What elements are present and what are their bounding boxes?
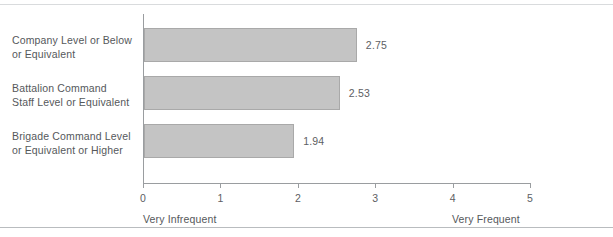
category-label-company-line1: Company Level or Below: [12, 33, 140, 47]
category-label-brigade-line2: or Equivalent or Higher: [12, 143, 140, 157]
x-tick-label-3: 3: [372, 192, 378, 204]
plot-area: 2.75 2.53 1.94 012345 Very Infrequent Ve…: [143, 14, 530, 183]
category-label-battalion-line1: Battalion Command: [12, 81, 140, 95]
bar-value-company: 2.75: [366, 39, 387, 51]
x-tick-1: [220, 183, 221, 188]
chart-figure: Company Level or Below or Equivalent Bat…: [0, 0, 613, 237]
bar-battalion[interactable]: [144, 76, 340, 110]
top-divider: [0, 4, 613, 5]
category-label-brigade-line1: Brigade Command Level: [12, 129, 140, 143]
bar-value-brigade: 1.94: [303, 135, 324, 147]
category-label-battalion: Battalion Command Staff Level or Equival…: [12, 81, 140, 109]
category-label-company-line2: or Equivalent: [12, 47, 140, 61]
x-tick-2: [298, 183, 299, 188]
scale-anchor-high: Very Frequent: [452, 213, 520, 225]
x-tick-label-4: 4: [450, 192, 456, 204]
x-tick-label-1: 1: [217, 192, 223, 204]
bottom-divider: [0, 227, 613, 228]
x-tick-4: [453, 183, 454, 188]
x-tick-label-5: 5: [527, 192, 533, 204]
bar-value-battalion: 2.53: [349, 87, 370, 99]
x-tick-label-2: 2: [295, 192, 301, 204]
bar-company[interactable]: [144, 28, 357, 62]
x-tick-0: [143, 183, 144, 188]
category-label-brigade: Brigade Command Level or Equivalent or H…: [12, 129, 140, 157]
x-axis-line: [143, 183, 530, 184]
bar-brigade[interactable]: [144, 124, 294, 158]
x-tick-5: [530, 183, 531, 188]
scale-anchor-low: Very Infrequent: [143, 213, 216, 225]
x-tick-label-0: 0: [140, 192, 146, 204]
category-label-battalion-line2: Staff Level or Equivalent: [12, 95, 140, 109]
category-label-company: Company Level or Below or Equivalent: [12, 33, 140, 61]
x-tick-3: [375, 183, 376, 188]
